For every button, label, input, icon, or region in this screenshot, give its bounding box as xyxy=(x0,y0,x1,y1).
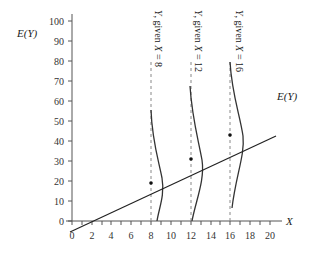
svg-text:0: 0 xyxy=(59,216,64,227)
svg-text:14: 14 xyxy=(206,230,216,241)
mean-point-x8 xyxy=(149,181,153,185)
svg-text:30: 30 xyxy=(54,156,64,167)
svg-text:10: 10 xyxy=(54,196,64,207)
svg-text:70: 70 xyxy=(54,76,64,87)
x-tick-labels: 0 2 4 6 8 10 12 14 16 18 20 xyxy=(70,230,276,241)
svg-text:6: 6 xyxy=(129,230,134,241)
svg-text:40: 40 xyxy=(54,136,64,147)
svg-text:8: 8 xyxy=(149,230,154,241)
y-axis-title: E(Y) xyxy=(16,27,38,40)
svg-text:20: 20 xyxy=(54,176,64,187)
svg-text:100: 100 xyxy=(49,16,64,27)
y-ticks xyxy=(68,21,72,221)
svg-text:20: 20 xyxy=(265,230,275,241)
distribution-curve-x12 xyxy=(190,86,203,221)
mean-point-x12 xyxy=(189,157,193,161)
y-tick-labels: 0 10 20 30 40 50 60 70 80 90 100 xyxy=(49,16,64,227)
svg-text:10: 10 xyxy=(166,230,176,241)
distribution-label-x12: Y, given X = 12 xyxy=(193,10,204,72)
regression-line-label: E(Y) xyxy=(276,90,298,103)
x-ticks xyxy=(72,221,270,225)
svg-text:16: 16 xyxy=(225,230,235,241)
dashed-guides xyxy=(151,62,230,221)
distribution-curve-x8 xyxy=(151,110,163,221)
svg-text:50: 50 xyxy=(54,116,64,127)
svg-text:12: 12 xyxy=(186,230,196,241)
regression-line xyxy=(70,136,276,232)
svg-text:18: 18 xyxy=(245,230,255,241)
svg-text:2: 2 xyxy=(90,230,95,241)
svg-text:60: 60 xyxy=(54,96,64,107)
distribution-label-x8: Y, given X = 8 xyxy=(153,10,164,67)
svg-text:90: 90 xyxy=(54,36,64,47)
regression-diagram: 0 10 20 30 40 50 60 70 80 90 100 0 xyxy=(0,0,312,254)
mean-point-x16 xyxy=(228,133,232,137)
x-axis-title: X xyxy=(285,215,294,227)
svg-text:80: 80 xyxy=(54,56,64,67)
distribution-curve-x16 xyxy=(230,62,243,208)
svg-text:4: 4 xyxy=(109,230,114,241)
distribution-label-x16: Y, given X = 16 xyxy=(234,10,245,72)
